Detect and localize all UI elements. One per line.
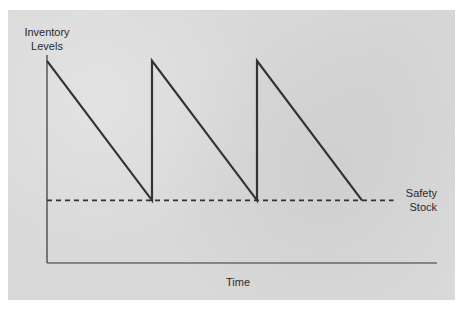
inventory-chart: Inventory Levels Time Safety Stock — [0, 0, 465, 309]
y-axis-label-line-1: Inventory — [24, 26, 70, 38]
safety-stock-label-line-1: Safety — [406, 187, 438, 199]
x-axis-label: Time — [226, 276, 250, 288]
inventory-level-line — [47, 61, 362, 200]
safety-stock-label-line-2: Stock — [409, 201, 437, 213]
y-axis-label-line-2: Levels — [31, 40, 63, 52]
